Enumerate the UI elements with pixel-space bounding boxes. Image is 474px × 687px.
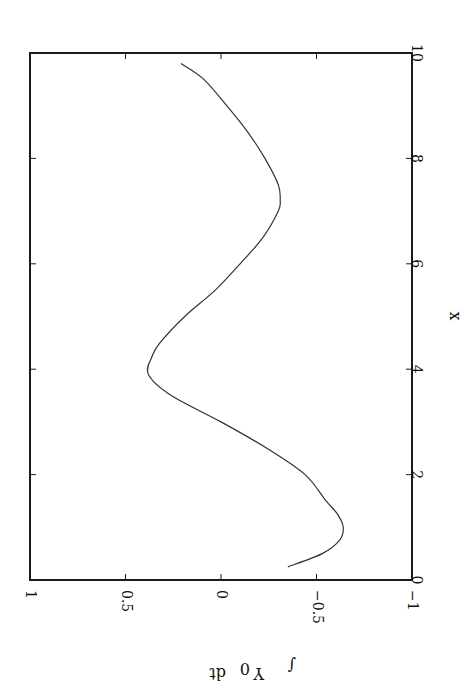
y-tick-label: −0.5: [310, 590, 326, 624]
y-axis-title-variable: Y: [253, 664, 265, 683]
y-axis-title-subscript: 0: [240, 659, 250, 678]
x-tick-label: 4: [409, 365, 425, 374]
x-tick-label: 6: [409, 259, 425, 268]
x-tick-label: 2: [409, 470, 425, 479]
y-tick-label: 1: [23, 590, 39, 599]
x-tick-label: 10: [409, 44, 425, 62]
y-tick-label: −1: [405, 590, 421, 611]
chart: 0246810−1−0.500.51 x ∫ Y 0 dt: [0, 0, 474, 687]
y-axis-title-dt: dt: [209, 664, 226, 683]
x-tick-label: 8: [409, 154, 425, 163]
x-tick-label: 0: [409, 576, 425, 585]
y-axis-title-integral: ∫: [288, 656, 296, 675]
y-tick-label: 0.5: [119, 590, 135, 612]
x-axis-title: x: [446, 311, 465, 320]
chart-background: [0, 0, 474, 687]
y-tick-label: 0: [214, 590, 230, 599]
